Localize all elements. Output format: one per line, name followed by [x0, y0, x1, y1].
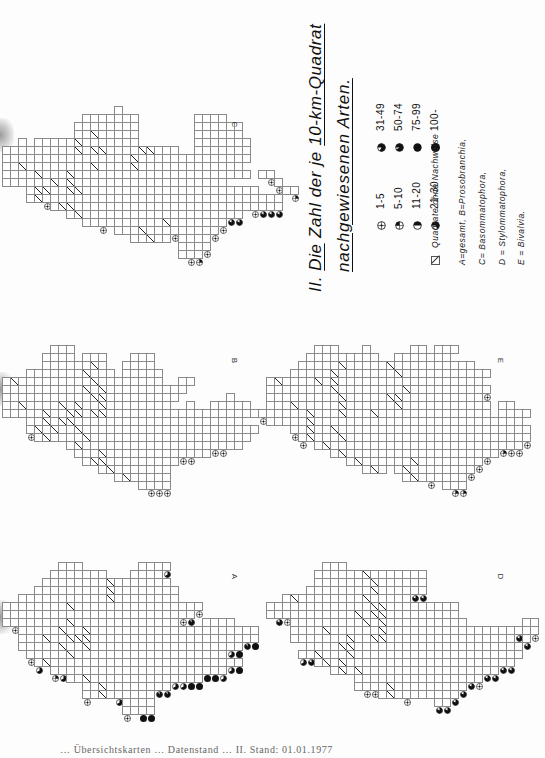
legend-item-11-20: 11-20 — [411, 171, 422, 230]
legend-no-record: Quadrate ohne Nachweise — [430, 134, 440, 265]
legend-class-label: 100- — [429, 93, 440, 131]
density-symbol-icon — [236, 644, 243, 651]
grid-square-class-8 — [146, 706, 155, 715]
grid-square — [170, 393, 179, 402]
grid-square-class-8 — [234, 658, 243, 667]
legend-class-label: 11-20 — [411, 171, 422, 209]
density-symbol-icon — [236, 660, 243, 667]
density-symbol-icon — [532, 628, 539, 635]
legend-class-label: 1-5 — [375, 171, 386, 209]
grid-square-class-5 — [450, 690, 459, 699]
grid-square-class-1 — [522, 433, 531, 442]
grid-square-class-5 — [234, 210, 243, 219]
grid-square-class-1 — [474, 457, 483, 466]
grid-square-class-1 — [466, 465, 475, 474]
density-symbol-icon — [164, 483, 171, 490]
density-symbol-icon — [468, 467, 475, 474]
density-symbol-icon — [252, 636, 259, 643]
grid-square-class-2 — [290, 186, 299, 195]
grid-square-class-5 — [506, 658, 515, 667]
grid-square-class-1 — [194, 602, 203, 611]
grid-square-class-1 — [530, 626, 539, 635]
map-label-b: B — [230, 358, 239, 363]
legend-item-50-74: 50-74 — [393, 93, 404, 152]
grid-square — [378, 465, 387, 474]
grid-square — [170, 457, 179, 466]
grid-square-class-8 — [250, 634, 259, 643]
density-symbol-icon — [196, 604, 203, 611]
grid-square — [450, 345, 459, 354]
density-symbol-icon — [452, 692, 459, 699]
density-symbol-icon — [236, 212, 243, 219]
grid-square — [242, 170, 251, 179]
density-symbol-icon — [516, 443, 523, 450]
figure-title-line2: nachgewiesenen Arten. — [334, 78, 354, 272]
grid-square-class-1 — [218, 218, 227, 227]
density-symbol-icon — [164, 684, 171, 691]
grid-square — [242, 433, 251, 442]
grid-square — [482, 369, 491, 378]
density-symbol-icon — [420, 588, 427, 595]
grid-square-class-4 — [162, 562, 171, 571]
density-symbol-icon — [188, 612, 195, 619]
map-label-c: C — [230, 122, 239, 128]
density-symbol-icon — [212, 228, 219, 235]
grid-square-class-1 — [482, 385, 491, 394]
legend-item-75-99: 75-99 — [411, 93, 422, 152]
density-symbol-icon — [196, 676, 203, 683]
density-symbol-icon — [460, 483, 467, 490]
density-symbol-icon — [524, 435, 531, 442]
legend-class-label: 50-74 — [393, 93, 404, 131]
title-quadrat: 10-km-Quadrat — [306, 24, 325, 146]
grid-square — [186, 377, 195, 386]
density-symbol-icon — [524, 636, 531, 643]
grid-square-class-5 — [490, 666, 499, 675]
grid-square-class-5 — [274, 202, 283, 211]
density-symbol-icon — [413, 143, 422, 152]
figure-title-line1: II. Die Zahl der je 10-km-Quadrat — [306, 24, 326, 292]
density-symbol-icon — [204, 244, 211, 251]
legend-key-line: C= Basommatophora, — [477, 171, 487, 265]
grid-square-class-5 — [418, 586, 427, 595]
density-symbol-icon — [220, 220, 227, 227]
density-symbol-icon — [444, 700, 451, 707]
grid-square-class-8 — [234, 642, 243, 651]
title-word-die: Die — [306, 243, 325, 270]
grid-square — [234, 441, 243, 450]
grid-square-class-8 — [194, 674, 203, 683]
density-symbol-icon — [413, 221, 422, 230]
grid-square-class-1 — [162, 481, 171, 490]
grid-square — [250, 425, 259, 434]
map-label-e: E — [496, 358, 505, 363]
map-label-d: D — [496, 574, 505, 580]
density-symbol-icon — [276, 204, 283, 211]
density-symbol-icon — [492, 668, 499, 675]
legend-key-line: D = Stylommatophora, — [497, 168, 507, 265]
density-symbol-icon — [460, 684, 467, 691]
grid-square — [490, 449, 499, 458]
grid-square-class-4 — [218, 666, 227, 675]
legend-item-1-5: 1-5 — [375, 171, 386, 230]
grid-square-class-1 — [474, 674, 483, 683]
density-symbol-icon — [508, 660, 515, 667]
legend-item-31-49: 31-49 — [375, 93, 386, 152]
grid-square-class-1 — [210, 226, 219, 235]
grid-square-class-6 — [162, 682, 171, 691]
density-symbol-icon — [196, 252, 203, 259]
legend-key-line: A=gesamt, B=Prosobranchia, — [457, 138, 467, 265]
density-symbol-icon — [476, 676, 483, 683]
density-symbol-icon — [148, 708, 155, 715]
density-symbol-icon — [377, 143, 386, 152]
title-number: II. — [306, 276, 325, 292]
density-symbol-icon — [377, 221, 386, 230]
no-record-square-icon — [431, 256, 440, 265]
grid-square-class-1 — [514, 441, 523, 450]
grid-square-class-5 — [522, 634, 531, 643]
no-record-label: Quadrate ohne Nachweise — [430, 134, 440, 248]
legend-class-label: 5-10 — [393, 171, 404, 209]
grid-square — [202, 449, 211, 458]
grid-square — [514, 650, 523, 659]
grid-square-class-5 — [442, 698, 451, 707]
density-symbol-icon — [484, 387, 491, 394]
density-symbol-icon — [395, 143, 404, 152]
